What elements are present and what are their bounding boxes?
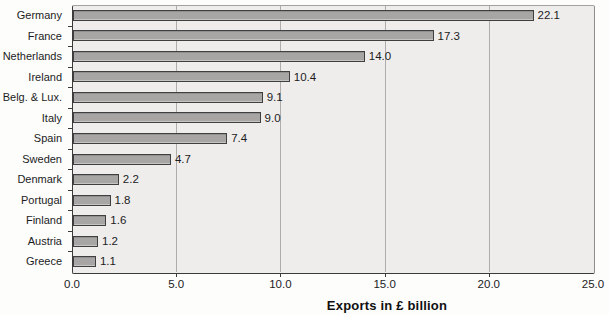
bar <box>73 133 227 144</box>
bar <box>73 195 111 206</box>
y-axis-tick <box>68 46 72 47</box>
bar <box>73 10 534 21</box>
bar <box>73 92 263 103</box>
bar <box>73 256 96 267</box>
value-label: 14.0 <box>369 46 391 67</box>
bar <box>73 71 290 82</box>
category-label: Italy <box>0 108 62 129</box>
y-axis-tick <box>68 108 72 109</box>
x-axis-tick <box>489 273 490 277</box>
bar <box>73 30 434 41</box>
category-label: Germany <box>0 5 62 26</box>
gridline <box>280 6 281 272</box>
value-label: 1.2 <box>102 231 118 252</box>
y-axis-tick <box>68 149 72 150</box>
category-label: Greece <box>0 251 62 272</box>
category-label: Spain <box>0 128 62 149</box>
y-axis-tick <box>68 87 72 88</box>
bar <box>73 236 98 247</box>
category-label: Sweden <box>0 149 62 170</box>
category-label: France <box>0 26 62 47</box>
y-axis-tick <box>68 128 72 129</box>
x-tick-label: 15.0 <box>373 278 395 290</box>
x-tick-label: 0.0 <box>64 278 80 290</box>
category-label: Netherlands <box>0 46 62 67</box>
x-tick-label: 5.0 <box>168 278 184 290</box>
x-tick-label: 10.0 <box>269 278 291 290</box>
x-axis-tick <box>280 273 281 277</box>
y-axis-tick <box>68 190 72 191</box>
value-label: 2.2 <box>123 169 139 190</box>
x-tick-label: 20.0 <box>478 278 500 290</box>
value-label: 17.3 <box>438 26 460 47</box>
value-label: 9.1 <box>267 87 283 108</box>
category-label: Austria <box>0 231 62 252</box>
x-axis-tick <box>385 273 386 277</box>
y-axis-tick <box>68 26 72 27</box>
category-label: Portugal <box>0 190 62 211</box>
category-label: Denmark <box>0 169 62 190</box>
value-label: 10.4 <box>294 67 316 88</box>
value-label: 1.8 <box>115 190 131 211</box>
x-axis-tick <box>176 273 177 277</box>
value-label: 7.4 <box>231 128 247 149</box>
y-axis-tick <box>68 67 72 68</box>
value-label: 1.6 <box>110 210 126 231</box>
gridline <box>489 6 490 272</box>
value-label: 22.1 <box>538 5 560 26</box>
bar <box>73 51 365 62</box>
x-tick-label: 25.0 <box>582 278 604 290</box>
value-label: 4.7 <box>175 149 191 170</box>
y-axis-tick <box>68 231 72 232</box>
bar <box>73 174 119 185</box>
exports-bar-chart: Exports in £ billion Germany22.1France17… <box>0 0 609 315</box>
value-label: 1.1 <box>100 251 116 272</box>
y-axis-tick <box>68 251 72 252</box>
category-label: Belg. & Lux. <box>0 87 62 108</box>
y-axis-tick <box>68 169 72 170</box>
bar <box>73 154 171 165</box>
category-label: Finland <box>0 210 62 231</box>
bar <box>73 215 106 226</box>
value-label: 9.0 <box>265 108 281 129</box>
y-axis-tick <box>68 210 72 211</box>
x-axis-title: Exports in £ billion <box>327 298 447 313</box>
category-label: Ireland <box>0 67 62 88</box>
bar <box>73 112 261 123</box>
